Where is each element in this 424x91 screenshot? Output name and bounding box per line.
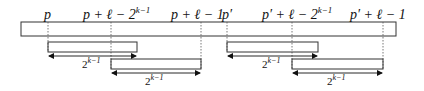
interval-box-2 [111,59,201,69]
length-label-1: 2k−1 [82,56,100,70]
interval-box-3 [227,42,318,52]
length-label-3: 2k−1 [262,56,280,70]
interval-box-4 [292,59,383,69]
interval-box-1 [48,42,137,52]
label-p-plus-l-minus-2k: p + ℓ − 2k−1 [82,5,150,22]
length-label-2: 2k−1 [145,73,163,87]
label-pprime: p′ [221,7,233,22]
length-label-4: 2k−1 [327,73,345,87]
interval-diagram: p p + ℓ − 2k−1 p + ℓ − 1 p′ p′ + ℓ − 2k−… [0,0,424,91]
label-p-plus-l-minus-1: p + ℓ − 1 [170,7,224,22]
main-array-bar [21,22,396,36]
label-p: p [43,7,51,22]
label-pprime-plus-l-minus-1: p′ + ℓ − 1 [349,7,406,22]
label-pprime-plus-l-minus-2k: p′ + ℓ − 2k−1 [261,5,332,22]
